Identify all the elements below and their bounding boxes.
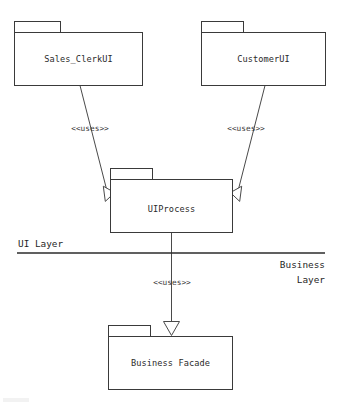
dependency-line bbox=[238, 86, 265, 192]
diagram-canvas: <<uses>> <<uses>> Sales_ClerkUI Customer… bbox=[0, 0, 338, 412]
uml-package-diagram: <<uses>> <<uses>> Sales_ClerkUI Customer… bbox=[0, 0, 338, 412]
scan-artifact bbox=[3, 398, 29, 402]
package-sales-clerk-ui[interactable]: Sales_ClerkUI bbox=[15, 22, 143, 86]
package-business-facade[interactable]: Business Facade bbox=[109, 326, 233, 390]
package-ui-process[interactable]: UIProcess bbox=[111, 169, 233, 233]
package-label: CustomerUI bbox=[237, 54, 290, 64]
package-label: Business Facade bbox=[131, 358, 210, 368]
business-layer-label-line2: Layer bbox=[297, 274, 326, 285]
package-label: Sales_ClerkUI bbox=[44, 54, 113, 64]
package-tab bbox=[111, 169, 153, 180]
dependency-sales-clerk-to-uiprocess[interactable]: <<uses>> bbox=[71, 86, 114, 202]
dependency-uiprocess-to-facade[interactable]: <<uses>> bbox=[153, 233, 191, 336]
package-customer-ui[interactable]: CustomerUI bbox=[202, 22, 326, 86]
package-tab bbox=[15, 22, 61, 33]
dependency-arrowhead bbox=[164, 322, 180, 336]
dependency-line bbox=[80, 86, 107, 192]
business-layer-label-line1: Business bbox=[280, 259, 325, 270]
package-tab bbox=[202, 22, 244, 33]
package-label: UIProcess bbox=[148, 204, 195, 214]
package-tab bbox=[109, 326, 151, 337]
dependency-stereotype-label: <<uses>> bbox=[227, 124, 265, 133]
ui-layer-label: UI Layer bbox=[18, 238, 64, 249]
dependency-stereotype-label: <<uses>> bbox=[71, 124, 109, 133]
dependency-stereotype-label: <<uses>> bbox=[153, 278, 191, 287]
